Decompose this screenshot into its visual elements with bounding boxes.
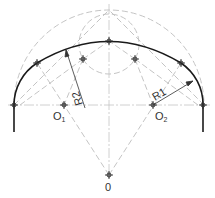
marker-o xyxy=(105,171,113,179)
label-o2: O2 xyxy=(155,110,168,123)
marker-top xyxy=(105,37,113,45)
line-o-o2 xyxy=(109,63,181,175)
marker-o1 xyxy=(60,101,68,109)
label-center-o: 0 xyxy=(105,181,111,193)
label-o1: O1 xyxy=(53,110,66,123)
right-small-arc xyxy=(181,63,203,105)
arch-outline xyxy=(14,42,203,133)
arch-construction-diagram: O1 O2 0 R1 R2 xyxy=(0,0,215,198)
marker-right-end xyxy=(199,101,207,109)
marker-inner-left xyxy=(79,55,87,63)
marker-inner-right xyxy=(131,55,139,63)
chord-left xyxy=(14,10,109,105)
r1-arrowhead xyxy=(186,81,193,86)
left-small-arc xyxy=(14,63,37,105)
line-o-o1 xyxy=(37,63,109,175)
label-r2: R2 xyxy=(69,90,85,107)
point-markers xyxy=(10,37,207,179)
